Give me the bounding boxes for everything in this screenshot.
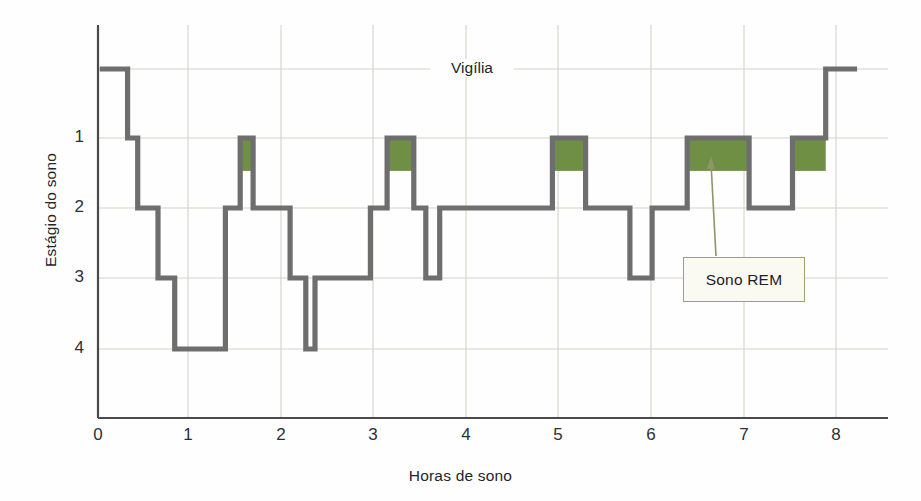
- rem-block: [387, 138, 414, 171]
- x-tick-label-7: 7: [724, 425, 764, 445]
- callout-leader-line: [711, 163, 716, 256]
- axis-spines: [98, 25, 888, 418]
- rem-block: [792, 138, 825, 171]
- x-tick-label-0: 0: [78, 425, 118, 445]
- y-tick-label-1: 1: [48, 127, 84, 147]
- x-axis-title: Horas de sono: [0, 467, 921, 485]
- vertical-gridlines: [188, 25, 836, 418]
- y-tick-label-3: 3: [48, 267, 84, 287]
- rem-sleep-fills: [240, 138, 825, 171]
- x-tick-label-2: 2: [261, 425, 301, 445]
- x-tick-label-4: 4: [446, 425, 486, 445]
- y-tick-label-2: 2: [48, 197, 84, 217]
- y-tick-label-4: 4: [48, 338, 84, 358]
- hypnogram-chart: Estágio do sono Horas de sono 1 2 3 4 0 …: [0, 0, 921, 501]
- x-tick-label-8: 8: [816, 425, 856, 445]
- wake-level-label: Vigília: [430, 59, 514, 77]
- rem-block: [552, 138, 585, 171]
- rem-sleep-callout: Sono REM: [683, 257, 805, 302]
- x-tick-label-6: 6: [631, 425, 671, 445]
- x-tick-label-3: 3: [353, 425, 393, 445]
- x-tick-label-1: 1: [168, 425, 208, 445]
- rem-block: [687, 138, 749, 171]
- x-tick-label-5: 5: [538, 425, 578, 445]
